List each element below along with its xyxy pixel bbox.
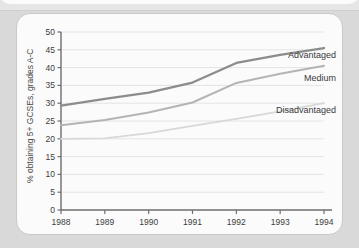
y-tick-label: 25 [46, 116, 56, 126]
series-labels: AdvantagedMediumDisadvantaged [276, 50, 336, 115]
y-tick-label: 40 [46, 63, 56, 73]
y-tick-label: 30 [46, 98, 56, 108]
series-label-medium: Medium [304, 73, 336, 83]
screenshot-root: 05101520253035404550 1988198919901991199… [0, 0, 359, 248]
y-tick-label: 45 [46, 45, 56, 55]
series-label-disadvantaged: Disadvantaged [276, 105, 336, 115]
series-label-advantaged: Advantaged [288, 50, 336, 60]
y-axis-title: % obtaining 5+ GCSEs, grades A-C [25, 49, 35, 183]
y-tick-label: 15 [46, 152, 56, 162]
line-chart: 05101520253035404550 1988198919901991199… [17, 14, 344, 236]
series-line-advantaged [61, 48, 324, 106]
x-tick-label: 1991 [183, 217, 202, 227]
series-lines [61, 48, 324, 139]
x-axis: 1988198919901991199219931994 [52, 210, 334, 227]
y-tick-label: 35 [46, 80, 56, 90]
x-tick-label: 1992 [227, 217, 246, 227]
y-tick-label: 20 [46, 134, 56, 144]
x-tick-label: 1989 [95, 217, 114, 227]
x-tick-label: 1994 [315, 217, 334, 227]
y-tick-label: 10 [46, 169, 56, 179]
figure-card: 05101520253035404550 1988198919901991199… [16, 13, 343, 235]
chart-canvas: 05101520253035404550 1988198919901991199… [17, 14, 344, 236]
y-tick-label: 0 [50, 205, 55, 215]
x-tick-label: 1990 [139, 217, 158, 227]
y-tick-label: 5 [50, 187, 55, 197]
y-tick-label: 50 [46, 27, 56, 37]
x-tick-label: 1988 [52, 217, 71, 227]
page-top-strip [0, 0, 359, 11]
series-line-medium [61, 66, 324, 125]
y-axis: 05101520253035404550 [46, 27, 61, 215]
page-top-strip-corner [0, 0, 359, 4]
x-tick-label: 1993 [271, 217, 290, 227]
